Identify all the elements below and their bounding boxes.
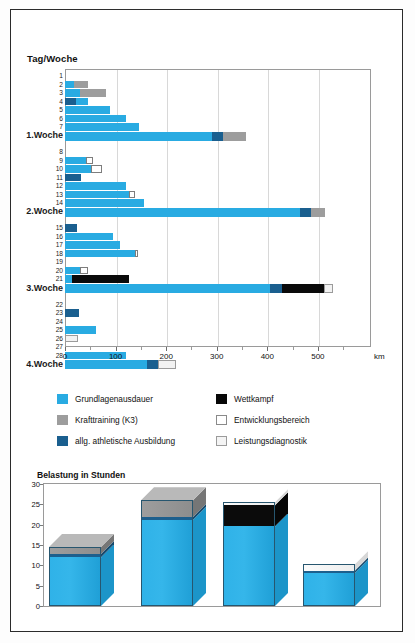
segment-leistungsdiagnostik: [324, 284, 333, 293]
day-bar: [65, 335, 78, 343]
top-chart-title: Tag/Woche: [27, 53, 78, 64]
y-axis-tick-label: 0: [24, 602, 40, 611]
day-bar: [65, 191, 135, 199]
y-axis-tick: [40, 484, 43, 485]
stacked-bar: [65, 98, 88, 106]
stacked-bar: [65, 309, 79, 317]
segment-athletische-ausbildung: [65, 98, 76, 106]
day-bar: [65, 174, 81, 182]
segment-krafttraining: [80, 89, 106, 97]
day-row-label: 11: [31, 174, 63, 182]
day-bar: [65, 157, 93, 165]
day-bar: [65, 199, 144, 207]
segment-grundlagenausdauer-front: [49, 557, 101, 606]
y-axis-tick: [40, 586, 43, 587]
legend-item: Wettkampf: [216, 394, 274, 404]
day-bar: [65, 165, 102, 173]
day-bar: [65, 250, 138, 258]
day-row-label: 12: [31, 182, 63, 190]
x-axis-minor-tick: [141, 347, 142, 350]
y-axis-tick-label: 30: [24, 480, 40, 489]
bar-3d: [303, 551, 368, 606]
day-row-label: 21: [31, 275, 63, 283]
x-axis-tick-label: 500: [311, 352, 324, 361]
stacked-bar: [65, 182, 126, 190]
x-axis-tick: [217, 347, 218, 351]
day-bar: [65, 81, 88, 89]
day-bar: [65, 233, 113, 241]
day-row-label: 8: [31, 148, 63, 156]
segment-grundlagenausdauer: [65, 123, 139, 131]
y-axis-tick: [40, 606, 43, 607]
bar-3d: [49, 534, 114, 606]
x-axis-minor-tick: [293, 347, 294, 350]
bottom-chart-title: Belastung in Stunden: [37, 470, 125, 480]
stacked-bar: [65, 224, 77, 232]
day-row-label: 9: [31, 157, 63, 165]
stacked-bar: [65, 326, 96, 334]
segment-grundlagenausdauer: [65, 106, 110, 114]
stacked-bar: [65, 267, 88, 275]
week-total-bar: [65, 132, 246, 141]
day-bar: [65, 98, 88, 106]
segment-entwicklungsbereich: [80, 267, 88, 275]
legend-label: Grundlagenausdauer: [75, 394, 153, 404]
segment-krafttraining-front: [141, 500, 193, 517]
y-axis-tick: [40, 545, 43, 546]
day-row-label: 23: [31, 309, 63, 317]
x-axis-tick-label: 400: [261, 352, 274, 361]
legend-color-swatch: [57, 394, 68, 404]
x-axis-tick-label: 0: [63, 352, 67, 361]
segment-grundlagenausdauer-front: [223, 526, 275, 606]
segment-grundlagenausdauer: [65, 267, 80, 275]
x-axis-minor-tick: [90, 347, 91, 350]
day-row-label: 6: [31, 115, 63, 123]
segment-grundlagenausdauer: [65, 157, 86, 165]
segment-grundlagenausdauer: [65, 233, 113, 241]
legend-label: Leistungsdiagnostik: [234, 436, 307, 446]
day-bar: [65, 241, 120, 249]
segment-athletische-ausbildung-front: [49, 554, 101, 557]
segment-wettkampf: [72, 275, 129, 283]
legend-color-swatch: [57, 415, 68, 425]
segment-grundlagenausdauer: [65, 132, 212, 141]
day-row-label: 4: [31, 98, 63, 106]
segment-grundlagenausdauer: [65, 165, 91, 173]
day-row-label: 15: [31, 224, 63, 232]
stacked-bar: [65, 241, 120, 249]
segment-grundlagenausdauer: [65, 250, 135, 258]
segment-grundlagenausdauer: [65, 241, 120, 249]
weekly-kilometre-chart: Tag/Woche 12345671.Woche8910111213142.Wo…: [11, 10, 404, 380]
segment-krafttraining: [311, 208, 325, 217]
day-row-label: 1: [31, 72, 63, 80]
x-axis-tick: [267, 347, 268, 351]
segment-entwicklungsbereich: [91, 165, 102, 173]
segment-athletische-ausbildung: [147, 360, 158, 369]
x-axis-minor-tick: [343, 347, 344, 350]
segment-wettkampf: [282, 284, 323, 293]
week-row-label: 1.Woche: [15, 131, 63, 140]
segment-wettkampf-front: [223, 505, 275, 526]
stacked-bar: [65, 360, 176, 369]
stacked-bar: [65, 157, 93, 165]
stacked-bar: [65, 115, 126, 123]
segment-grundlagenausdauer: [65, 284, 270, 293]
segment-grundlagenausdauer: [65, 326, 96, 334]
day-bar: [65, 309, 79, 317]
legend-item: Grundlagenausdauer: [57, 394, 153, 404]
segment-athletische-ausbildung-front: [303, 571, 355, 573]
segment-grundlagenausdauer: [65, 115, 126, 123]
segment-entwicklungsbereich: [86, 157, 93, 165]
segment-athletische-ausbildung: [212, 132, 223, 141]
y-axis-tick: [40, 504, 43, 505]
segment-grundlagenausdauer: [65, 89, 80, 97]
segment-athletische-ausbildung: [65, 224, 77, 232]
day-row-label: 25: [31, 326, 63, 334]
segment-athletische-ausbildung: [65, 174, 81, 182]
stacked-bar: [65, 165, 102, 173]
segment-leistungsdiagnostik-front: [303, 564, 355, 571]
day-row-label: 18: [31, 250, 63, 258]
day-bar: [65, 115, 126, 123]
x-axis-unit-label: km: [374, 352, 385, 361]
segment-entwicklungsbereich: [129, 191, 135, 199]
